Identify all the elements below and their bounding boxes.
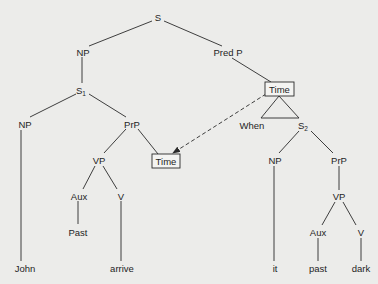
leaf-john: John: [15, 263, 36, 274]
edge-vp-aux-right: [322, 202, 335, 225]
node-predp: Pred P: [213, 47, 242, 58]
edge-vp-v-right: [343, 202, 356, 225]
edge-s-np: [89, 21, 152, 46]
node-s2-subscript: 2: [304, 125, 308, 132]
edge-vp-v: [103, 166, 117, 189]
edge-prp-vp: [104, 129, 126, 153]
node-np-left: NP: [18, 119, 31, 130]
tree-edges: [21, 21, 361, 261]
edge-vp-aux: [83, 166, 95, 189]
node-time-lower: Time: [156, 156, 177, 167]
edge-prp-time: [138, 129, 158, 154]
leaf-it: it: [273, 263, 278, 274]
node-aux-left: Aux: [71, 191, 88, 202]
node-s: S: [155, 12, 161, 23]
tree-labels: S NP Pred P S1 Time NP PrP When S2 VP Ti…: [15, 12, 371, 274]
leaf-arrive: arrive: [110, 263, 134, 274]
leaf-dark: dark: [352, 263, 371, 274]
node-vp-right: VP: [333, 191, 346, 202]
node-prp-right: PrP: [331, 155, 347, 166]
syntax-tree-diagram: S NP Pred P S1 Time NP PrP When S2 VP Ti…: [0, 0, 378, 284]
node-np-right: NP: [268, 155, 281, 166]
node-v-left: V: [118, 191, 125, 202]
edge-s-predp: [164, 21, 222, 46]
edge-s1-prp: [89, 94, 126, 117]
node-time-upper: Time: [269, 84, 290, 95]
node-np-top: NP: [76, 47, 89, 58]
edge-s1-np: [30, 94, 76, 117]
edge-predp-time: [232, 58, 271, 82]
node-aux-right: Aux: [310, 227, 327, 238]
triangle-abbreviation: [261, 96, 299, 118]
leaf-past: past: [309, 263, 327, 274]
node-v-right: V: [358, 227, 365, 238]
node-s1-subscript: 1: [82, 90, 86, 97]
node-vp-left: VP: [93, 155, 106, 166]
node-prp-left: PrP: [124, 119, 140, 130]
node-s1: S1: [76, 85, 86, 97]
node-s2: S2: [298, 120, 308, 132]
node-when: When: [240, 120, 265, 131]
edge-s2-prp: [311, 131, 333, 153]
node-past-left: Past: [68, 227, 87, 238]
edge-s2-np: [279, 131, 299, 153]
